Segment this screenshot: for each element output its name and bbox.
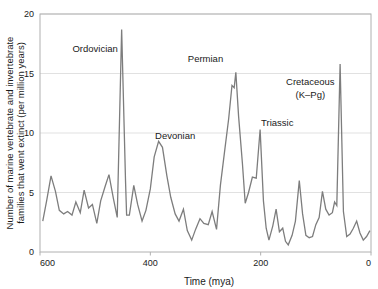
y-tick-label-0: 0 bbox=[29, 247, 34, 257]
annotation-cretaceous-line2: (K–Pg) bbox=[296, 89, 326, 100]
chart-annotations: OrdovicianDevonianPermianTriassicCretace… bbox=[72, 43, 334, 141]
x-tick-label-400: 400 bbox=[143, 258, 158, 268]
annotation-ordovician: Ordovician bbox=[72, 43, 117, 54]
y-tick-label-20: 20 bbox=[24, 9, 34, 19]
y-axis-title-line2: families that went extinct (per million … bbox=[15, 42, 26, 224]
x-axis-title: Time (mya) bbox=[184, 276, 234, 287]
x-axis-ticks: 6004002000 bbox=[40, 252, 371, 268]
y-tick-label-5: 5 bbox=[29, 188, 34, 198]
chart-svg: 05101520 6004002000 OrdovicianDevonianPe… bbox=[0, 0, 378, 289]
x-tick-label-0: 0 bbox=[366, 258, 371, 268]
x-tick-label-200: 200 bbox=[253, 258, 268, 268]
annotation-permian: Permian bbox=[188, 53, 223, 64]
x-tick-label-600: 600 bbox=[40, 258, 55, 268]
y-axis-title-line1: Number of marine vertebrate and inverteb… bbox=[4, 37, 15, 230]
annotation-triassic: Triassic bbox=[261, 117, 294, 128]
annotation-cretaceous-line1: Cretaceous bbox=[286, 76, 335, 87]
gridlines bbox=[40, 14, 371, 193]
annotation-devonian: Devonian bbox=[155, 130, 195, 141]
extinction-rate-chart: 05101520 6004002000 OrdovicianDevonianPe… bbox=[0, 0, 378, 289]
